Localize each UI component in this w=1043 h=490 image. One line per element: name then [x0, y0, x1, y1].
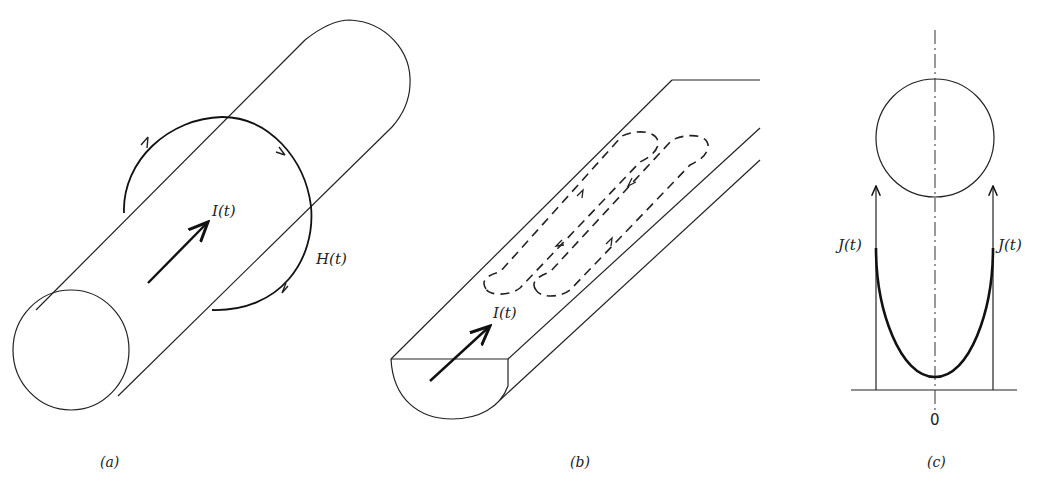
- cylinder-top-edge: [36, 40, 305, 310]
- current-arrow-b: [430, 326, 490, 381]
- cylinder-back-cap: [305, 20, 410, 127]
- label-origin: 0: [930, 411, 940, 429]
- panel-c: J(t) J(t) 0 (c): [835, 30, 1022, 470]
- current-arrow-a: [148, 222, 208, 283]
- caption-b: (b): [570, 454, 590, 470]
- h-arrow-icon-2: [276, 147, 285, 155]
- eddy-arrow-icon-1: [577, 190, 583, 198]
- label-field-a: H(t): [315, 250, 347, 268]
- cylinder-bottom-edge: [118, 127, 392, 396]
- slab-under-edge: [500, 160, 760, 400]
- caption-c: (c): [927, 454, 946, 470]
- label-j-left: J(t): [835, 236, 862, 254]
- eddy-arrow-icon-4: [606, 238, 612, 246]
- h-arrow-icon-1: [141, 137, 148, 148]
- slab-front-semicircle: [391, 359, 508, 419]
- label-current-b: I(t): [492, 304, 517, 322]
- eddy-loop-1: [484, 132, 658, 294]
- h-field-loop-upper: [124, 117, 311, 213]
- panel-b: I(t) (b): [391, 80, 760, 470]
- caption-a: (a): [100, 454, 119, 470]
- h-field-loop-lower: [212, 206, 311, 310]
- panel-a: I(t) H(t) (a): [13, 20, 410, 470]
- label-current-a: I(t): [211, 202, 236, 220]
- slab-right-edge: [508, 128, 760, 359]
- slab-left-edge: [391, 80, 672, 359]
- cylinder-front-cap: [13, 290, 129, 410]
- figure-canvas: I(t) H(t) (a) I(t) (b): [0, 0, 1043, 490]
- eddy-loop-2: [534, 136, 708, 296]
- label-j-right: J(t): [995, 236, 1022, 254]
